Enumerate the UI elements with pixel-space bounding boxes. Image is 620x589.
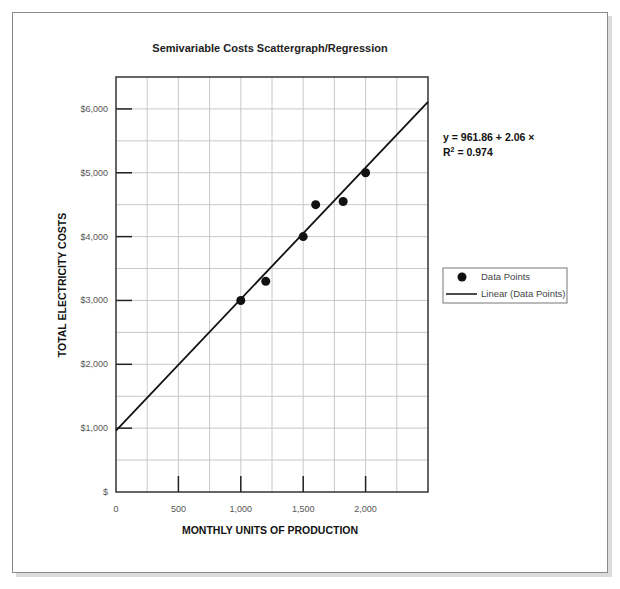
legend-label-linear: Linear (Data Points) (481, 288, 565, 299)
r-squared-label: R2 = 0.974 (443, 146, 493, 158)
y-tick-label: $ (103, 487, 108, 497)
x-tick-label: 1,500 (292, 504, 315, 514)
data-point (339, 197, 348, 206)
y-tick-label: $4,000 (80, 232, 108, 242)
grid (116, 77, 428, 492)
x-tick-labels: 05001,0001,5002,000 (113, 504, 376, 514)
x-tick-label: 1,000 (230, 504, 253, 514)
legend-marker-data-points (458, 273, 467, 282)
x-axis-title: MONTHLY UNITS OF PRODUCTION (182, 524, 358, 536)
data-point (361, 168, 370, 177)
x-tick-label: 0 (113, 504, 118, 514)
y-tick-label: $3,000 (80, 295, 108, 305)
scatter-chart: Semivariable Costs Scattergraph/Regressi… (0, 0, 620, 589)
chart-title: Semivariable Costs Scattergraph/Regressi… (152, 42, 388, 54)
r-squared-value: = 0.974 (455, 146, 493, 158)
y-axis-title: TOTAL ELECTRICITY COSTS (56, 213, 68, 357)
y-tick-label: $6,000 (80, 104, 108, 114)
legend: Data Points Linear (Data Points) (443, 268, 567, 303)
y-tick-label: $2,000 (80, 359, 108, 369)
regression-equation: y = 961.86 + 2.06 × (443, 131, 534, 143)
legend-label-data-points: Data Points (481, 271, 530, 282)
data-point (311, 200, 320, 209)
x-tick-label: 500 (171, 504, 186, 514)
y-tick-label: $5,000 (80, 168, 108, 178)
y-tick-label: $1,000 (80, 423, 108, 433)
data-point (236, 296, 245, 305)
x-tick-label: 2,000 (354, 504, 377, 514)
data-point (299, 232, 308, 241)
data-point (261, 277, 270, 286)
y-tick-labels: $$1,000$2,000$3,000$4,000$5,000$6,000 (80, 104, 108, 497)
